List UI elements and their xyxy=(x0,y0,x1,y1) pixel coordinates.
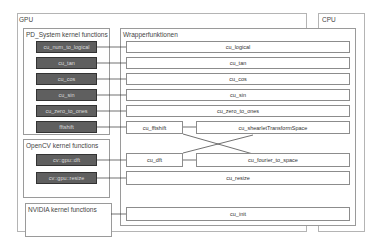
wrapper-cu-zero-to-ones: cu_zero_to_ones xyxy=(126,105,350,117)
nvidia-kernel-label: NVIDIA kernel functions xyxy=(28,206,97,213)
wrapper-cu-logical: cu_logical xyxy=(126,41,350,53)
wrapper-cu-resize: cu_resize xyxy=(126,171,350,185)
gpu-label: GPU xyxy=(19,16,33,23)
kernel-cv-gpu-dft: cv::gpu::dft xyxy=(36,154,97,166)
cpu-label: CPU xyxy=(322,16,336,23)
wrapper-functions-label: Wrapperfunktionen xyxy=(123,31,178,38)
wrapper-cu-init: cu_init xyxy=(126,207,350,221)
kernel-cu-cos: cu_cos xyxy=(36,73,97,85)
wrapper-cu-sin: cu_sin xyxy=(126,89,350,101)
kernel-cu-sin: cu_sin xyxy=(36,89,97,101)
kernel-cu-zero-to-ones: cu_zero_to_ones xyxy=(36,105,97,117)
kernel-cu-num-to-logical: cu_num_to_logical xyxy=(36,41,97,53)
wrapper-cu-fftshift: cu_fftshift xyxy=(126,121,183,134)
kernel-fftshift: fftshift xyxy=(36,121,97,133)
wrapper-cu-fourier-to-space: cu_fourier_to_space xyxy=(196,153,350,167)
kernel-cv-gpu-resize: cv::gpu::resize xyxy=(36,172,97,184)
wrapper-cu-dft: cu_dft xyxy=(126,153,183,167)
opencv-kernel-label: OpenCV kernel functions xyxy=(26,142,98,149)
wrapper-cu-cos: cu_cos xyxy=(126,73,350,85)
wrapper-cu-tan: cu_tan xyxy=(126,57,350,69)
kernel-cu-tan: cu_tan xyxy=(36,57,97,69)
pd-system-kernel-label: PD_System kernel functions xyxy=(26,31,108,38)
wrapper-cu-shearlet-transform-space: cu_shearletTransformSpace xyxy=(196,121,350,134)
